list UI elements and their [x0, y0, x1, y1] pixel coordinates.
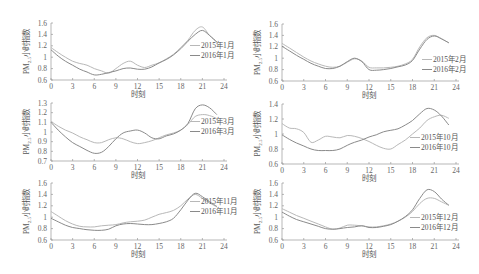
y-tick-label: 0.8	[269, 145, 279, 154]
x-axis-label: 时刻	[362, 90, 376, 100]
x-tick-label: 21	[431, 166, 439, 175]
y-tick-label: 1.1	[38, 118, 48, 127]
series-line-1	[282, 35, 449, 68]
y-tick-label: 1.4	[38, 30, 48, 39]
x-tick-label: 9	[114, 242, 118, 251]
y-tick-label: 0.8	[38, 224, 48, 233]
y-tick-label: 1.4	[38, 190, 48, 199]
y-axis-label: PM2.5小时指数	[21, 188, 32, 234]
x-axis-label: 时刻	[362, 249, 376, 259]
y-tick-label: 1.6	[38, 19, 48, 28]
x-tick-label: 21	[199, 82, 207, 91]
x-tick-label: 3	[302, 242, 306, 251]
series-line-1	[51, 115, 217, 144]
x-tick-label: 21	[431, 242, 439, 251]
x-tick-label: 0	[280, 83, 284, 92]
x-tick-label: 15	[387, 83, 395, 92]
x-tick-label: 6	[324, 242, 328, 251]
x-tick-label: 18	[409, 242, 417, 251]
x-tick-label: 0	[280, 242, 284, 251]
x-tick-label: 0	[49, 82, 53, 91]
y-tick-label: 0.6	[269, 236, 279, 245]
x-tick-label: 6	[92, 163, 96, 172]
x-tick-label: 3	[71, 242, 75, 251]
legend-label: 2015年12月	[421, 212, 458, 222]
chart-panel-3: 0.70.80.911.11.21.303691215182124时刻PM2.5…	[21, 99, 234, 181]
x-tick-label: 3	[302, 166, 306, 175]
chart-grid: 0.60.811.21.41.603691215182124时刻PM2.5小时指…	[0, 0, 479, 274]
y-tick-label: 1	[274, 54, 278, 63]
legend-label: 2015年10月	[421, 132, 458, 142]
x-tick-label: 15	[155, 82, 163, 91]
y-axis-label: PM2.5小时指数	[21, 28, 32, 74]
y-tick-label: 1	[274, 130, 278, 139]
x-tick-label: 9	[114, 163, 118, 172]
x-tick-label: 15	[155, 242, 163, 251]
y-tick-label: 1.2	[38, 108, 48, 117]
y-tick-label: 1	[43, 213, 47, 222]
x-tick-label: 9	[345, 83, 349, 92]
y-tick-label: 0.8	[269, 65, 279, 74]
x-tick-label: 24	[452, 242, 460, 251]
x-tick-label: 21	[431, 83, 439, 92]
x-axis-label: 时刻	[131, 89, 145, 99]
y-tick-label: 1.2	[38, 41, 48, 50]
x-tick-label: 6	[92, 82, 96, 91]
x-tick-label: 18	[177, 242, 185, 251]
y-tick-label: 0.6	[269, 160, 279, 169]
y-axis-label: PM2.5小时指数	[252, 188, 263, 234]
chart-panel-2: 0.60.811.21.41.603691215182124时刻PM2.5小时指…	[252, 20, 466, 101]
y-tick-label: 1.6	[269, 20, 279, 29]
chart-panel-4: 0.60.811.21.403691215182124时刻PM2.5小时指数20…	[252, 100, 460, 184]
y-tick-label: 0.8	[38, 147, 48, 156]
y-tick-label: 1.3	[38, 99, 48, 108]
series-line-1	[51, 27, 217, 73]
y-tick-label: 1.2	[269, 201, 279, 210]
series-line-2	[51, 105, 217, 154]
y-tick-label: 0.6	[269, 77, 279, 86]
y-tick-label: 1.4	[269, 100, 279, 109]
x-tick-label: 3	[71, 163, 75, 172]
x-tick-label: 9	[114, 82, 118, 91]
x-tick-label: 15	[387, 166, 395, 175]
x-tick-label: 18	[409, 166, 417, 175]
x-axis-label: 时刻	[131, 170, 145, 180]
legend-label: 2015年2月	[433, 54, 466, 64]
x-tick-label: 18	[177, 82, 185, 91]
x-axis-label: 时刻	[362, 173, 376, 183]
y-tick-label: 1.4	[269, 31, 279, 40]
x-tick-label: 3	[71, 82, 75, 91]
x-tick-label: 6	[324, 166, 328, 175]
x-tick-label: 0	[280, 166, 284, 175]
x-tick-label: 24	[220, 82, 228, 91]
legend-label: 2016年1月	[201, 50, 234, 60]
y-tick-label: 1.2	[269, 42, 279, 51]
legend-label: 2016年11月	[201, 206, 237, 216]
y-tick-label: 0.8	[38, 64, 48, 73]
x-tick-label: 18	[409, 83, 417, 92]
legend-label: 2015年11月	[201, 196, 237, 206]
x-tick-label: 21	[199, 163, 207, 172]
legend-label: 2016年12月	[421, 222, 458, 232]
x-tick-label: 9	[345, 242, 349, 251]
y-tick-label: 1.2	[269, 115, 279, 124]
series-line-2	[51, 30, 217, 75]
x-tick-label: 24	[452, 83, 460, 92]
y-tick-label: 0.7	[38, 157, 48, 166]
y-tick-label: 0.9	[38, 137, 48, 146]
x-tick-label: 15	[387, 242, 395, 251]
x-tick-label: 0	[49, 163, 53, 172]
chart-panel-6: 0.60.811.21.41.603691215182124时刻PM2.5小时指…	[252, 179, 460, 260]
x-tick-label: 24	[220, 163, 228, 172]
x-tick-label: 9	[345, 166, 349, 175]
legend-label: 2016年2月	[433, 64, 466, 74]
x-tick-label: 6	[324, 83, 328, 92]
y-tick-label: 1	[43, 53, 47, 62]
y-tick-label: 1	[43, 128, 47, 137]
y-tick-label: 1.6	[38, 179, 48, 188]
x-tick-label: 0	[49, 242, 53, 251]
legend-label: 2015年3月	[201, 116, 234, 126]
y-tick-label: 1	[274, 213, 278, 222]
chart-panel-1: 0.60.811.21.41.603691215182124时刻PM2.5小时指…	[21, 19, 234, 100]
y-tick-label: 1.4	[269, 190, 279, 199]
